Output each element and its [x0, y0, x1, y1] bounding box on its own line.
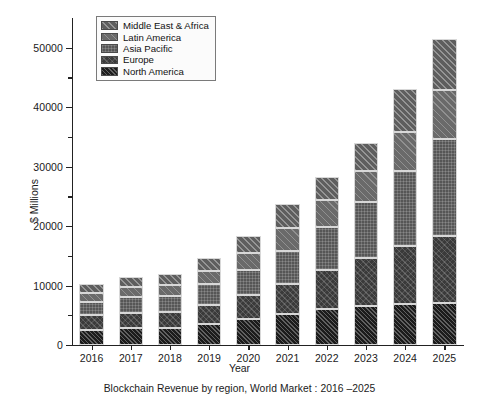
y-tick-minor — [68, 137, 72, 138]
bar-segment[interactable] — [315, 270, 339, 309]
bar-segment[interactable] — [79, 293, 103, 302]
bar-segment[interactable] — [119, 313, 143, 328]
bar-segment[interactable] — [354, 143, 378, 172]
bar-segment[interactable] — [432, 39, 456, 90]
bar-stack[interactable] — [119, 277, 143, 345]
bar-segment[interactable] — [393, 246, 417, 304]
bar-segment[interactable] — [158, 328, 182, 345]
legend-swatch-icon — [101, 56, 118, 65]
x-tick — [405, 345, 406, 350]
bar-stack[interactable] — [393, 89, 417, 345]
legend-item[interactable]: North America — [101, 66, 209, 77]
x-tick — [327, 345, 328, 350]
y-tick-major — [66, 226, 72, 227]
legend-swatch-icon — [101, 67, 118, 76]
y-tick-major — [66, 345, 72, 346]
chart-caption: Blockchain Revenue by region, World Mark… — [0, 383, 479, 394]
chart-figure: $ Millions 01000020000300004000050000 20… — [0, 0, 479, 402]
y-tick-major — [66, 286, 72, 287]
legend-label: North America — [123, 66, 184, 77]
x-tick — [444, 345, 445, 350]
y-tick-major — [66, 107, 72, 108]
bar-segment[interactable] — [79, 315, 103, 329]
y-tick-label: 30000 — [33, 161, 63, 173]
bar-segment[interactable] — [197, 271, 221, 284]
bar-segment[interactable] — [432, 303, 456, 345]
legend-item[interactable]: Asia Pacific — [101, 43, 209, 54]
legend-swatch-icon — [101, 21, 118, 30]
bar-segment[interactable] — [432, 236, 456, 303]
bar-segment[interactable] — [119, 297, 143, 312]
bar-segment[interactable] — [275, 228, 299, 251]
bar-segment[interactable] — [119, 287, 143, 297]
bar-stack[interactable] — [432, 39, 456, 345]
legend-label: Middle East & Africa — [123, 20, 209, 31]
bar-segment[interactable] — [236, 270, 260, 296]
legend: Middle East & AfricaLatin AmericaAsia Pa… — [96, 16, 216, 81]
bar-segment[interactable] — [393, 132, 417, 171]
bar-segment[interactable] — [354, 306, 378, 345]
bar-segment[interactable] — [393, 304, 417, 345]
legend-item[interactable]: Latin America — [101, 31, 209, 42]
bar-segment[interactable] — [354, 171, 378, 202]
bar-segment[interactable] — [119, 277, 143, 287]
bar-stack[interactable] — [79, 284, 103, 345]
y-axis-title: $ Millions — [28, 179, 40, 223]
bar-segment[interactable] — [236, 319, 260, 345]
x-tick — [209, 345, 210, 350]
bar-segment[interactable] — [79, 330, 103, 345]
bar-segment[interactable] — [432, 139, 456, 235]
x-tick — [131, 345, 132, 350]
bar-stack[interactable] — [315, 177, 339, 345]
bar-segment[interactable] — [79, 284, 103, 292]
bar-segment[interactable] — [275, 314, 299, 345]
y-tick-major — [66, 48, 72, 49]
bar-segment[interactable] — [236, 253, 260, 270]
x-tick — [288, 345, 289, 350]
legend-label: Asia Pacific — [123, 43, 173, 54]
bar-segment[interactable] — [158, 296, 182, 312]
legend-label: Latin America — [123, 32, 181, 43]
bar-segment[interactable] — [393, 89, 417, 132]
bar-segment[interactable] — [315, 200, 339, 227]
bar-segment[interactable] — [432, 90, 456, 139]
legend-item[interactable]: Europe — [101, 54, 209, 65]
bar-stack[interactable] — [197, 258, 221, 345]
y-tick-minor — [68, 196, 72, 197]
bar-segment[interactable] — [393, 171, 417, 246]
bar-segment[interactable] — [158, 285, 182, 296]
x-tick — [366, 345, 367, 350]
y-tick-label: 50000 — [33, 42, 63, 54]
bar-stack[interactable] — [275, 204, 299, 345]
bar-segment[interactable] — [197, 258, 221, 271]
bar-segment[interactable] — [315, 227, 339, 270]
legend-swatch-icon — [101, 33, 118, 42]
bar-segment[interactable] — [275, 251, 299, 284]
bar-segment[interactable] — [158, 274, 182, 285]
bar-segment[interactable] — [197, 324, 221, 345]
y-tick-label: 20000 — [33, 220, 63, 232]
y-tick-minor — [68, 77, 72, 78]
bar-segment[interactable] — [315, 309, 339, 345]
x-tick — [170, 345, 171, 350]
bar-segment[interactable] — [275, 204, 299, 228]
bar-segment[interactable] — [354, 258, 378, 306]
y-tick-label: 40000 — [33, 101, 63, 113]
y-tick-minor — [68, 256, 72, 257]
bar-segment[interactable] — [79, 302, 103, 316]
bar-segment[interactable] — [236, 295, 260, 319]
bar-stack[interactable] — [354, 143, 378, 345]
bar-segment[interactable] — [275, 284, 299, 314]
legend-item[interactable]: Middle East & Africa — [101, 20, 209, 31]
x-axis-title: Year — [0, 362, 479, 374]
bar-segment[interactable] — [315, 177, 339, 200]
bar-segment[interactable] — [197, 305, 221, 325]
bar-segment[interactable] — [158, 312, 182, 328]
bar-segment[interactable] — [354, 202, 378, 258]
bar-segment[interactable] — [236, 236, 260, 253]
bar-stack[interactable] — [236, 236, 260, 345]
y-tick-label: 10000 — [33, 280, 63, 292]
bar-stack[interactable] — [158, 274, 182, 345]
bar-segment[interactable] — [119, 328, 143, 345]
bar-segment[interactable] — [197, 284, 221, 304]
